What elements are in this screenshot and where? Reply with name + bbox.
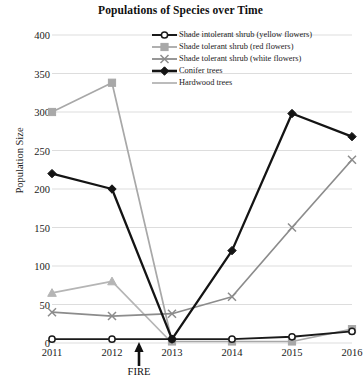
marker-triangle	[108, 277, 117, 285]
legend-swatch	[152, 65, 177, 77]
marker-diamond	[48, 169, 56, 177]
marker-circle	[229, 336, 235, 342]
legend-label-3: Conifer trees	[178, 65, 223, 77]
legend-swatch	[152, 29, 177, 41]
legend-item-0[interactable]: Shade intolerant shrub (yellow flowers)	[152, 29, 312, 41]
legend-label-1: Shade tolerant shrub (red flowers)	[178, 41, 293, 53]
marker-circle	[349, 328, 355, 334]
legend-key-circle-icon	[152, 29, 177, 41]
series-0	[49, 328, 355, 342]
legend-swatch	[152, 53, 177, 65]
fire-annotation-label: FIRE	[128, 366, 151, 377]
legend-label-4: Hardwood trees	[178, 77, 232, 89]
marker-diamond	[160, 67, 168, 75]
chart-legend: Shade intolerant shrub (yellow flowers)S…	[152, 29, 312, 89]
marker-square	[108, 79, 115, 86]
marker-square	[161, 44, 168, 51]
series-line	[52, 281, 172, 343]
legend-item-2[interactable]: Shade tolerant shrub (white flowers)	[152, 53, 312, 65]
fire-arrow-head	[134, 342, 143, 352]
fire-annotation	[134, 342, 143, 366]
marker-diamond	[348, 132, 356, 140]
series-4	[48, 277, 172, 343]
legend-label-2: Shade tolerant shrub (white flowers)	[178, 53, 301, 65]
marker-circle	[289, 334, 295, 340]
legend-key-square-icon	[152, 41, 177, 53]
marker-square	[48, 108, 55, 115]
legend-label-0: Shade intolerant shrub (yellow flowers)	[178, 29, 312, 41]
legend-swatch	[152, 77, 177, 89]
marker-circle	[49, 336, 55, 342]
series-3	[48, 109, 356, 343]
legend-item-3[interactable]: Conifer trees	[152, 65, 312, 77]
marker-circle	[109, 336, 115, 342]
marker-diamond	[288, 109, 296, 117]
marker-diamond	[108, 185, 116, 193]
legend-item-4[interactable]: Hardwood trees	[152, 77, 312, 89]
legend-key-x-icon	[152, 53, 177, 65]
legend-item-1[interactable]: Shade tolerant shrub (red flowers)	[152, 41, 312, 53]
marker-circle	[161, 32, 167, 38]
legend-swatch	[152, 41, 177, 53]
legend-key-triangle-icon	[152, 77, 177, 89]
series-line	[52, 83, 352, 342]
series-line	[52, 160, 352, 316]
legend-key-diamond-icon	[152, 65, 177, 77]
marker-x	[348, 156, 356, 164]
